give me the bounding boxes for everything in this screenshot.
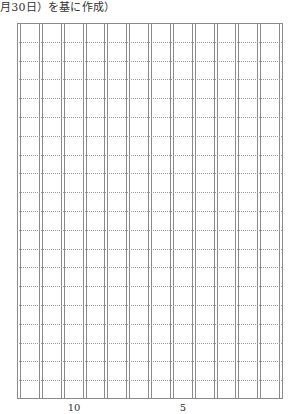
column-marker-10: 10 xyxy=(63,402,85,414)
manuscript-answer-grid[interactable] xyxy=(17,23,282,399)
row-guide xyxy=(17,42,282,43)
row-guide xyxy=(17,249,282,250)
row-guide xyxy=(17,98,282,99)
source-caption: 月30日）を基に作成） xyxy=(0,1,115,14)
row-guide xyxy=(17,361,282,362)
row-guide xyxy=(17,343,282,344)
row-guide xyxy=(17,267,282,268)
row-guide xyxy=(17,230,282,231)
row-guide xyxy=(17,79,282,80)
row-guide xyxy=(17,324,282,325)
row-guide xyxy=(17,211,282,212)
row-guide xyxy=(17,286,282,287)
row-guide xyxy=(17,305,282,306)
row-guide xyxy=(17,380,282,381)
column-marker-5: 5 xyxy=(172,402,194,414)
row-guide xyxy=(17,192,282,193)
row-guide xyxy=(17,136,282,137)
row-guide xyxy=(17,61,282,62)
row-guide xyxy=(17,117,282,118)
row-guide xyxy=(17,173,282,174)
row-guide xyxy=(17,155,282,156)
